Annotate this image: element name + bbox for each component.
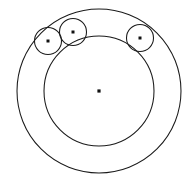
center-dot-small-left <box>47 40 50 43</box>
center-dot-main <box>97 89 100 92</box>
figure-canvas <box>0 0 196 181</box>
center-dot-small-top <box>72 31 75 34</box>
geometry-figure: Three congruent circles inscribed in a c… <box>0 0 196 181</box>
center-dot-small-right <box>139 37 142 40</box>
